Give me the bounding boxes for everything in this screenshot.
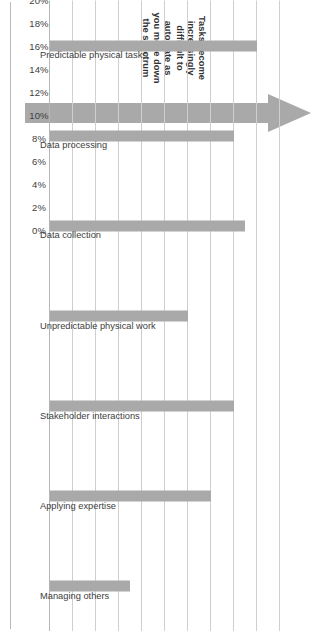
- tick-label-10%: 10%: [28, 110, 50, 120]
- gridline-14%: [210, 0, 211, 631]
- tick-label-2%: 2%: [28, 202, 50, 212]
- tick-label-6%: 6%: [28, 156, 50, 166]
- category-label: Unpredictable physical work: [40, 320, 156, 330]
- category-label: Predictable physical tasks: [40, 49, 147, 59]
- gridline-20%: [279, 0, 280, 631]
- bar: [50, 310, 188, 321]
- bar: [50, 400, 234, 411]
- category-label: Data collection: [40, 229, 101, 239]
- category-label: Managing others: [40, 590, 109, 600]
- bar-chart: 0%2%4%6%8%10%12%14%16%18%20% Predictable…: [0, 0, 324, 631]
- tick-label-4%: 4%: [28, 179, 50, 189]
- tick-label-14%: 14%: [28, 64, 50, 74]
- tick-label-12%: 12%: [28, 87, 50, 97]
- chart-page: Tasks become increasingly difficult to a…: [0, 0, 324, 631]
- category-label: Applying expertise: [40, 500, 116, 510]
- gridline-18%: [256, 0, 257, 631]
- tick-label-18%: 18%: [28, 18, 50, 28]
- category-label: Data processing: [40, 139, 107, 149]
- tick-label-20%: 20%: [28, 0, 50, 5]
- plot-area: [50, 0, 280, 631]
- gridline-16%: [233, 0, 234, 631]
- category-label: Stakeholder interactions: [40, 410, 140, 420]
